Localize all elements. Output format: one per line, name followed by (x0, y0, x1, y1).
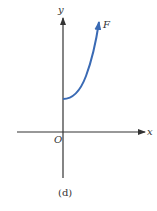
origin-label: O (54, 134, 62, 145)
curve-label: F (102, 19, 111, 30)
graph-figure: y x O F (d) (0, 0, 157, 211)
curve-f (63, 22, 99, 99)
figure-caption: (d) (58, 187, 72, 198)
x-axis-label: x (147, 126, 153, 137)
y-axis-label: y (57, 4, 64, 15)
